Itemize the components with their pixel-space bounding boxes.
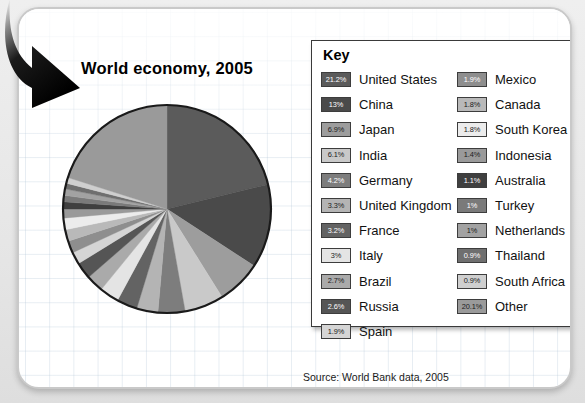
key-swatch: 20.1% (457, 299, 487, 314)
key-row: 1%Netherlands (457, 218, 572, 243)
key-swatch: 1.4% (457, 148, 487, 163)
key-row: 2.7%Brazil (321, 269, 451, 294)
pie-chart-svg (61, 103, 273, 315)
key-label: Thailand (495, 248, 545, 263)
key-swatch: 3.3% (321, 198, 351, 213)
key-label: South Africa (495, 274, 565, 289)
key-swatch: 1.8% (457, 122, 487, 137)
key-swatch: 0.9% (457, 274, 487, 289)
key-swatch: 13% (321, 97, 351, 112)
key-row: 21.2%United States (321, 67, 451, 92)
annotation-arrow-icon (2, 0, 92, 112)
key-row: 6.1%India (321, 143, 451, 168)
key-label: Australia (495, 173, 546, 188)
key-swatch: 1.9% (457, 72, 487, 87)
arrow-shape (5, 0, 80, 108)
key-column-left: 21.2%United States13%China6.9%Japan6.1%I… (321, 67, 451, 344)
key-swatch: 1% (457, 198, 487, 213)
key-row: 6.9%Japan (321, 117, 451, 142)
key-label: United Kingdom (359, 198, 452, 213)
key-label: China (359, 97, 393, 112)
key-row: 4.2%Germany (321, 168, 451, 193)
key-label: Indonesia (495, 148, 551, 163)
key-row: 1.9%Spain (321, 319, 451, 344)
key-label: Russia (359, 299, 399, 314)
key-swatch: 21.2% (321, 72, 351, 87)
key-row: 3%Italy (321, 243, 451, 268)
key-label: Japan (359, 122, 394, 137)
key-swatch: 1.1% (457, 173, 487, 188)
pie-chart (61, 103, 273, 315)
key-swatch: 3% (321, 248, 351, 263)
key-label: Spain (359, 324, 392, 339)
key-label: Canada (495, 97, 541, 112)
key-row: 1%Turkey (457, 193, 572, 218)
key-swatch: 4.2% (321, 173, 351, 188)
key-label: France (359, 223, 399, 238)
key-swatch: 2.6% (321, 299, 351, 314)
key-heading: Key (323, 47, 350, 63)
key-swatch: 3.2% (321, 223, 351, 238)
key-row: 1.9%Mexico (457, 67, 572, 92)
key-swatch: 1.8% (457, 97, 487, 112)
key-label: United States (359, 72, 437, 87)
key-swatch: 6.9% (321, 122, 351, 137)
key-swatch: 1.9% (321, 324, 351, 339)
key-row: 3.2%France (321, 218, 451, 243)
key-swatch: 6.1% (321, 148, 351, 163)
key-label: Germany (359, 173, 412, 188)
key-row: 1.4%Indonesia (457, 143, 572, 168)
key-label: Brazil (359, 274, 392, 289)
key-label: South Korea (495, 122, 567, 137)
key-label: Italy (359, 248, 383, 263)
key-row: 1.1%Australia (457, 168, 572, 193)
key-row: 0.9%Thailand (457, 243, 572, 268)
key-row: 13%China (321, 92, 451, 117)
page-title: World economy, 2005 (81, 59, 253, 78)
key-column-right: 1.9%Mexico1.8%Canada1.8%South Korea1.4%I… (457, 67, 572, 319)
key-swatch: 2.7% (321, 274, 351, 289)
key-swatch: 1% (457, 223, 487, 238)
key-row: 0.9%South Africa (457, 269, 572, 294)
key-row: 1.8%South Korea (457, 117, 572, 142)
key-swatch: 0.9% (457, 248, 487, 263)
key-row: 1.8%Canada (457, 92, 572, 117)
key-label: Mexico (495, 72, 536, 87)
key-row: 2.6%Russia (321, 294, 451, 319)
key-label: Turkey (495, 198, 534, 213)
source-note: Source: World Bank data, 2005 (303, 371, 449, 383)
key-label: India (359, 148, 387, 163)
key-row: 20.1%Other (457, 294, 572, 319)
key-label: Netherlands (495, 223, 565, 238)
slide-card: World economy, 2005 Key 21.2%United Stat… (17, 7, 572, 389)
key-legend-box: Key 21.2%United States13%China6.9%Japan6… (311, 40, 572, 327)
key-label: Other (495, 299, 528, 314)
key-row: 3.3%United Kingdom (321, 193, 451, 218)
